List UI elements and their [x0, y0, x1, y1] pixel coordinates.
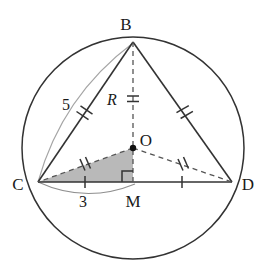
chord-bd: [133, 42, 232, 182]
label-point-c: C: [12, 175, 23, 194]
label-point-b: B: [120, 15, 131, 34]
construction-arc-cm: [38, 182, 135, 194]
label-point-d: D: [242, 175, 254, 194]
geometry-figure: B C D O M R 5 3: [0, 0, 273, 280]
tick-radius-od: [178, 157, 189, 171]
label-segment-cm-length: 3: [79, 193, 87, 210]
label-radius-r: R: [106, 91, 117, 108]
label-chord-bc-length: 5: [62, 96, 70, 113]
geometry-canvas: B C D O M R 5 3: [0, 0, 273, 280]
center-point-dot: [130, 145, 136, 151]
label-point-o: O: [140, 131, 152, 150]
label-point-m: M: [125, 192, 140, 211]
